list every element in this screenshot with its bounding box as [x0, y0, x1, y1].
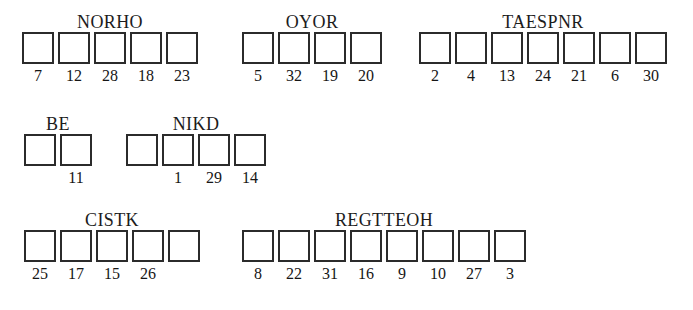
letter-cell: 31: [312, 230, 348, 282]
letter-box[interactable]: [22, 32, 54, 64]
clue-number: 21: [571, 67, 587, 84]
letter-box[interactable]: [126, 134, 158, 166]
letter-box[interactable]: [234, 134, 266, 166]
scrambled-word-label: BE: [22, 114, 94, 134]
letter-box[interactable]: [278, 32, 310, 64]
letter-cell: 14: [232, 134, 268, 186]
letter-box[interactable]: [198, 134, 230, 166]
scrambled-word-label: TAESPNR: [417, 12, 669, 32]
letter-box[interactable]: [314, 230, 346, 262]
letter-cell: 23: [164, 32, 200, 84]
puzzle-sheet: NORHO712281823OYOR5321920TAESPNR24132421…: [0, 0, 693, 310]
letter-box[interactable]: [455, 32, 487, 64]
clue-number: 30: [643, 67, 659, 84]
clue-number: 2: [431, 67, 439, 84]
clue-number: 25: [32, 265, 48, 282]
letter-cell: 1: [160, 134, 196, 186]
scrambled-word-label: OYOR: [240, 12, 384, 32]
clue-number: 11: [68, 169, 83, 186]
letter-box[interactable]: [491, 32, 523, 64]
letter-cell: 8: [240, 230, 276, 282]
scrambled-word-label: REGTTEOH: [240, 210, 528, 230]
clue-number: 7: [34, 67, 42, 84]
letter-box[interactable]: [350, 230, 382, 262]
letter-box[interactable]: [350, 32, 382, 64]
letter-cell: 12: [56, 32, 92, 84]
clue-number: 3: [506, 265, 514, 282]
clue-number: 32: [286, 67, 302, 84]
letter-cell: 4: [453, 32, 489, 84]
letter-cell: 32: [276, 32, 312, 84]
letter-cell: 2: [417, 32, 453, 84]
answer-boxes-strip: 8223116910273: [240, 230, 528, 282]
letter-cell: 11: [58, 134, 94, 186]
letter-box[interactable]: [494, 230, 526, 262]
letter-cell: 7: [20, 32, 56, 84]
clue-number: 4: [467, 67, 475, 84]
letter-box[interactable]: [314, 32, 346, 64]
letter-cell: 17: [58, 230, 94, 282]
letter-cell: 16: [348, 230, 384, 282]
letter-cell: 21: [561, 32, 597, 84]
clue-number: 24: [535, 67, 551, 84]
letter-box[interactable]: [242, 230, 274, 262]
letter-box[interactable]: [60, 230, 92, 262]
letter-cell: 20: [348, 32, 384, 84]
clue-number: 20: [358, 67, 374, 84]
letter-box[interactable]: [132, 230, 164, 262]
letter-cell: 27: [456, 230, 492, 282]
clue-number: 19: [322, 67, 338, 84]
letter-box[interactable]: [635, 32, 667, 64]
letter-box[interactable]: [166, 32, 198, 64]
letter-box[interactable]: [242, 32, 274, 64]
letter-cell: [166, 230, 202, 282]
clue-number: 8: [254, 265, 262, 282]
letter-box[interactable]: [94, 32, 126, 64]
answer-boxes-strip: 5321920: [240, 32, 384, 84]
clue-number: 17: [68, 265, 84, 282]
letter-box[interactable]: [24, 230, 56, 262]
letter-box[interactable]: [130, 32, 162, 64]
clue-number: 13: [499, 67, 515, 84]
letter-box[interactable]: [527, 32, 559, 64]
scrambled-word-label: NIKD: [124, 114, 268, 134]
letter-box[interactable]: [599, 32, 631, 64]
letter-cell: 3: [492, 230, 528, 282]
letter-cell: 25: [22, 230, 58, 282]
clue-number: 15: [104, 265, 120, 282]
letter-box[interactable]: [563, 32, 595, 64]
letter-cell: 6: [597, 32, 633, 84]
letter-box[interactable]: [419, 32, 451, 64]
scrambled-word-label: NORHO: [20, 12, 200, 32]
answer-boxes-strip: 712281823: [20, 32, 200, 84]
letter-box[interactable]: [422, 230, 454, 262]
clue-number: 6: [611, 67, 619, 84]
letter-box[interactable]: [58, 32, 90, 64]
letter-box[interactable]: [168, 230, 200, 262]
letter-box[interactable]: [386, 230, 418, 262]
answer-boxes-strip: 24132421630: [417, 32, 669, 84]
letter-cell: 10: [420, 230, 456, 282]
letter-cell: 13: [489, 32, 525, 84]
letter-cell: 29: [196, 134, 232, 186]
letter-box[interactable]: [278, 230, 310, 262]
letter-box[interactable]: [162, 134, 194, 166]
clue-number: 12: [66, 67, 82, 84]
clue-number: 5: [254, 67, 262, 84]
clue-number: 14: [242, 169, 258, 186]
letter-box[interactable]: [458, 230, 490, 262]
letter-cell: 5: [240, 32, 276, 84]
letter-box[interactable]: [60, 134, 92, 166]
clue-number: 9: [398, 265, 406, 282]
letter-cell: [124, 134, 160, 186]
letter-cell: 19: [312, 32, 348, 84]
letter-cell: 24: [525, 32, 561, 84]
letter-cell: 30: [633, 32, 669, 84]
clue-number: 31: [322, 265, 338, 282]
clue-number: 23: [174, 67, 190, 84]
letter-cell: 18: [128, 32, 164, 84]
letter-box[interactable]: [96, 230, 128, 262]
letter-box[interactable]: [24, 134, 56, 166]
clue-number: 10: [430, 265, 446, 282]
clue-number: 27: [466, 265, 482, 282]
